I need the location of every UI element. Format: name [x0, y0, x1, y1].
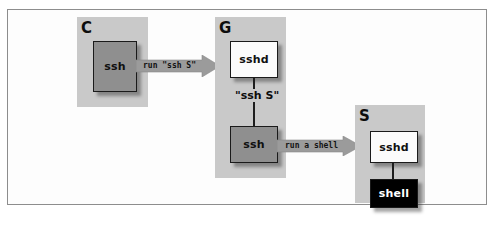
process-box-server-sshd: sshd — [370, 131, 418, 163]
ssh-gateway-figure: C ssh run "ssh S" G sshd "ssh S" ssh run… — [0, 0, 499, 230]
process-label-server-sshd: sshd — [379, 141, 409, 154]
process-label-server-shell: shell — [379, 187, 409, 200]
caption-sliver — [8, 219, 308, 229]
arrow-label-gateway-to-server: run a shell — [285, 141, 338, 150]
host-label-gateway: G — [219, 21, 231, 36]
arrow-label-client-to-gateway: run "ssh S" — [143, 61, 196, 70]
host-label-client: C — [81, 21, 92, 36]
connector-gateway-internal — [253, 78, 255, 126]
connector-server-internal — [392, 163, 394, 179]
process-box-gateway-sshd: sshd — [230, 41, 278, 78]
process-label-gateway-ssh: ssh — [243, 138, 265, 151]
process-box-server-shell: shell — [370, 179, 418, 208]
host-label-server: S — [359, 109, 370, 124]
process-label-gateway-sshd: sshd — [239, 53, 269, 66]
connector-label-gateway-internal: "ssh S" — [233, 89, 281, 102]
process-box-client-ssh: ssh — [93, 41, 137, 92]
process-label-client-ssh: ssh — [104, 60, 126, 73]
process-box-gateway-ssh: ssh — [230, 126, 278, 163]
